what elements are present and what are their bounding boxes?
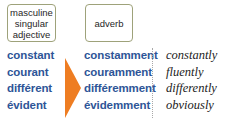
english-gloss: differently [166, 80, 217, 97]
adjective-item: courant [7, 64, 54, 81]
header-line: adjective [10, 29, 53, 40]
header-box-masculine-singular-adjective: masculine singular adjective [7, 4, 56, 42]
english-gloss: constantly [166, 47, 217, 64]
adverb-item: différemment [84, 80, 158, 97]
adjective-column: constant courant différent évident [7, 47, 54, 113]
dotted-divider [152, 48, 153, 118]
adjective-item: différent [7, 80, 54, 97]
header-line: masculine [10, 7, 53, 18]
adverb-item: constamment [84, 47, 158, 64]
english-gloss: obviously [166, 97, 217, 114]
adverb-column: constamment couramment différemment évid… [84, 47, 158, 113]
header-line: singular [10, 18, 53, 29]
english-gloss: fluently [166, 64, 217, 81]
header-label: adverb [94, 18, 123, 29]
adjective-item: constant [7, 47, 54, 64]
adverb-item: évidemment [84, 97, 158, 114]
arrow-right-icon [65, 58, 81, 118]
english-column: constantly fluently differently obviousl… [166, 47, 217, 113]
header-box-adverb: adverb [85, 4, 133, 42]
adjective-item: évident [7, 97, 54, 114]
adverb-item: couramment [84, 64, 158, 81]
